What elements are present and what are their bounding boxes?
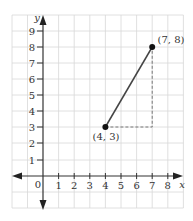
svg-text:3: 3 <box>87 180 93 191</box>
segment <box>105 47 152 127</box>
svg-text:9: 9 <box>29 26 35 37</box>
svg-text:1: 1 <box>29 155 35 166</box>
point-7-8 <box>149 44 155 50</box>
point-4-3 <box>102 124 108 130</box>
svg-text:6: 6 <box>133 180 139 191</box>
y-tick-labels: 1 2 3 4 5 6 7 8 9 <box>29 26 35 166</box>
origin-label: 0 <box>35 179 41 190</box>
svg-text:5: 5 <box>118 180 124 191</box>
svg-text:3: 3 <box>29 122 35 133</box>
svg-text:8: 8 <box>165 180 171 191</box>
svg-text:4: 4 <box>29 106 35 117</box>
svg-text:8: 8 <box>29 42 35 53</box>
svg-text:4: 4 <box>102 180 108 191</box>
x-axis-left-arrow-icon <box>12 173 22 180</box>
coordinate-plane: 1 2 3 4 5 6 7 8 1 2 3 4 5 6 7 8 9 0 x y … <box>0 0 193 221</box>
point-label-7-8: (7, 8) <box>158 34 185 45</box>
svg-text:7: 7 <box>29 58 35 69</box>
svg-text:2: 2 <box>29 138 35 149</box>
svg-text:6: 6 <box>29 74 35 85</box>
y-axis-label: y <box>33 12 40 23</box>
svg-text:5: 5 <box>29 90 35 101</box>
x-tick-labels: 1 2 3 4 5 6 7 8 <box>55 180 171 191</box>
svg-text:1: 1 <box>55 180 61 191</box>
y-axis-down-arrow-icon <box>40 200 47 210</box>
y-axis-up-arrow-icon <box>40 15 47 25</box>
x-axis-label: x <box>179 179 185 190</box>
svg-text:2: 2 <box>71 180 77 191</box>
svg-text:7: 7 <box>149 180 155 191</box>
point-label-4-3: (4, 3) <box>93 131 120 142</box>
